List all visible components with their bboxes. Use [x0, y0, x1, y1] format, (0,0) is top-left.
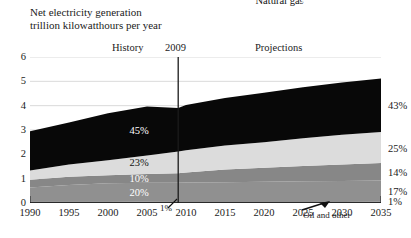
x-tick-label: 2005 — [137, 207, 158, 218]
pct-2035-natural-gas: 25% — [388, 142, 407, 153]
y-tick-label: 5 — [8, 76, 26, 86]
history-label: History — [112, 42, 144, 53]
chart-title-block: Net electricity generation trillion kilo… — [30, 6, 162, 32]
oil-arrow-left-icon — [166, 196, 182, 210]
pct-2035-coal: 43% — [388, 100, 407, 111]
y-tick-label: 6 — [8, 52, 26, 62]
x-tick-label: 1990 — [20, 207, 41, 218]
y-tick-label: 4 — [8, 101, 26, 111]
band-label-natural-gas: Natural gas — [256, 0, 304, 6]
y-axis: 0123456 — [4, 0, 26, 238]
divider-year-label: 2009 — [165, 42, 186, 53]
x-tick-label: 2000 — [98, 207, 119, 218]
y-tick-label: 2 — [8, 149, 26, 159]
pct-2009-renewable: 10% — [130, 173, 149, 184]
stacked-area-svg — [30, 57, 381, 203]
pct-2009-coal: 45% — [130, 124, 149, 135]
pct-2035-renewable: 14% — [388, 166, 407, 177]
pct-2035-nuclear: 17% — [388, 186, 407, 197]
oil-arrow-icon — [300, 200, 334, 214]
chart-subtitle: trillion kilowatthours per year — [30, 19, 162, 32]
area-bands — [30, 78, 381, 203]
pct-2035-oil-and-other: 1% — [388, 196, 402, 207]
y-tick-label: 1 — [8, 174, 26, 184]
chart-title: Net electricity generation — [30, 6, 162, 19]
chart-page: Net electricity generation trillion kilo… — [0, 0, 411, 238]
plot-area — [30, 57, 381, 203]
x-tick-label: 2035 — [371, 207, 392, 218]
x-tick-label: 2015 — [215, 207, 236, 218]
projections-label: Projections — [255, 42, 302, 53]
band-label-coal: Coal — [301, 0, 321, 6]
y-tick-label: 3 — [8, 125, 26, 135]
pct-2009-nuclear: 20% — [130, 187, 149, 198]
x-tick-label: 2020 — [254, 207, 275, 218]
x-tick-label: 1995 — [59, 207, 80, 218]
pct-2009-natural-gas: 23% — [130, 157, 149, 168]
